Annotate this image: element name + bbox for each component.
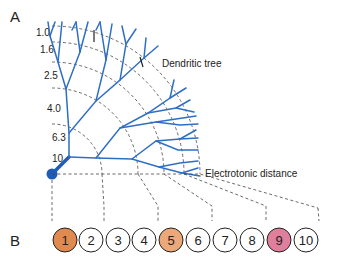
compartment-3: 3 (106, 228, 130, 252)
svg-text:9: 9 (275, 233, 282, 248)
panel-label-b: B (10, 232, 20, 249)
compartment-7: 7 (213, 228, 237, 252)
compartment-5: 5 (159, 228, 183, 252)
compartment-2: 2 (79, 228, 103, 252)
dendritic-tree-label: Dendritic tree (162, 58, 222, 69)
compartment-4: 4 (132, 228, 156, 252)
distance-tick-labels: 1.0 1.6 2.5 4.0 6.3 10 (36, 27, 66, 164)
tick-label: 2.5 (44, 70, 58, 81)
tick-label: 4.0 (47, 103, 61, 114)
panel-label-a: A (10, 8, 20, 25)
compartment-10: 10 (294, 228, 318, 252)
svg-text:2: 2 (87, 233, 94, 248)
svg-text:8: 8 (248, 233, 255, 248)
svg-text:5: 5 (167, 233, 174, 248)
compartment-row: 1 2 3 4 5 6 7 8 (53, 228, 318, 252)
compartment-9: 9 (267, 228, 291, 252)
dendritic-tree (48, 22, 200, 176)
dendrite-compartment-diagram: A B 1.0 1.6 2.5 4.0 6.3 10 (0, 0, 337, 266)
projection-lines (52, 174, 319, 221)
svg-text:3: 3 (114, 233, 121, 248)
compartment-6: 6 (186, 228, 210, 252)
compartment-1: 1 (53, 228, 77, 252)
svg-text:1: 1 (61, 233, 68, 248)
svg-text:4: 4 (140, 233, 147, 248)
electrotonic-distance-label: Electrotonic distance (205, 168, 298, 179)
tick-label: 6.3 (52, 132, 66, 143)
tick-label: 1.0 (36, 27, 50, 38)
svg-text:6: 6 (194, 233, 201, 248)
svg-text:7: 7 (221, 233, 228, 248)
svg-text:10: 10 (299, 233, 313, 248)
compartment-8: 8 (240, 228, 264, 252)
